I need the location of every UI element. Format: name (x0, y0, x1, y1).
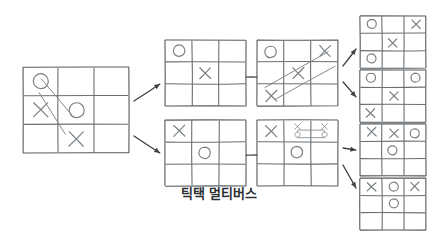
grid-hline-1 (166, 142, 245, 143)
grid-hline-2 (166, 84, 245, 85)
mark-o (295, 132, 300, 137)
arrow-bottom-board-to-outcome-a (343, 147, 356, 152)
cell-r1-c3 (410, 129, 419, 138)
scribble-diagonal-1 (41, 79, 72, 115)
grid-vline-2 (311, 121, 312, 185)
top-outcome-board-a (360, 16, 426, 68)
diagram-canvas: 틱택 멀티버스 (0, 0, 438, 236)
cell-r1-c1 (367, 19, 376, 28)
cell-r3-c1 (366, 109, 375, 118)
cell-r2-c2 (293, 67, 304, 78)
mark-o (199, 147, 210, 158)
mark-o (411, 73, 420, 82)
cell-r1-c1 (173, 45, 184, 56)
scribble-diagonal-2 (39, 93, 65, 134)
cell-r3-c1 (367, 54, 376, 63)
board-border (165, 120, 246, 186)
mark-o (322, 132, 327, 137)
mark-o (388, 146, 397, 155)
cell-r1-c3 (411, 73, 420, 82)
mark-o (291, 146, 302, 157)
cell-r2-c2 (390, 92, 398, 100)
root-board (23, 67, 129, 153)
mark-o (410, 129, 419, 138)
cell-r2-c2 (199, 147, 210, 158)
cell-r1-c1 (33, 74, 48, 89)
cell-r1-c1 (266, 126, 277, 137)
mark-o (367, 19, 376, 28)
arrow-head (154, 84, 160, 89)
cell-r2-c2 (388, 146, 397, 155)
cell-r1-c2 (390, 129, 399, 138)
scribble-arrow-1 (265, 52, 328, 88)
mark-o (366, 73, 375, 82)
cell-r1-c1 (366, 73, 375, 82)
arrow-root-to-bottom-branch (134, 136, 160, 153)
cell-r1-c1 (174, 125, 185, 136)
cell-r1-c3 (320, 45, 331, 56)
mark-o (367, 54, 376, 63)
cell-r2-c2 (388, 39, 397, 48)
bottom-branch-board-2 (257, 120, 338, 186)
grid-vline-1 (382, 16, 383, 67)
connectors-layer (134, 49, 356, 188)
bottom-branch-board-1 (165, 120, 246, 186)
mark-o (33, 74, 48, 89)
cell-r3-c2 (69, 132, 83, 147)
arrow-root-to-top-branch (134, 84, 160, 101)
cell-r2-c1 (34, 103, 48, 117)
top-branch-board-1 (165, 40, 246, 106)
cell-r1-c3 (412, 20, 421, 29)
top-branch-board-2 (257, 40, 338, 106)
figure-caption: 틱택 멀티버스 (0, 183, 438, 202)
cell-r2-c2 (291, 146, 302, 157)
arrow-top-board-to-outcome-b (343, 82, 356, 97)
mark-o (173, 45, 184, 56)
cell-r2-c2 (200, 68, 211, 79)
top-outcome-board-b (360, 70, 426, 122)
grid-vline-1 (192, 41, 193, 106)
arrow-head (350, 147, 356, 152)
cell-r1-c1 (367, 127, 376, 136)
bottom-outcome-board-a (360, 124, 426, 176)
mark-o (265, 46, 276, 57)
arrow-top-board-to-outcome-a (343, 49, 356, 66)
cell-r1-c1 (265, 46, 276, 57)
